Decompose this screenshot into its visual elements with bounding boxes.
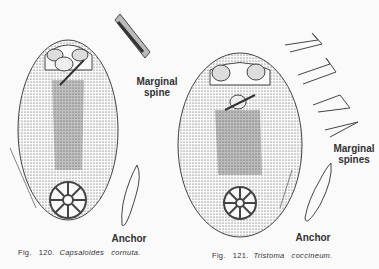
label-marginal-spine: Marginal spine bbox=[130, 76, 184, 98]
capsaloides-haptor bbox=[50, 182, 86, 218]
caption-species: Capsaloides cornuta. bbox=[59, 248, 140, 257]
figure-illustrations bbox=[0, 0, 379, 269]
label-line: spines bbox=[328, 154, 379, 165]
label-line: Marginal bbox=[130, 76, 184, 87]
label-marginal-spines: Marginal spines bbox=[328, 143, 379, 165]
caption-fig-121: Fig. 121. Tristoma coccineum. bbox=[212, 251, 333, 260]
caption-fig-120: Fig. 120. Capsaloides cornuta. bbox=[18, 248, 141, 257]
label-anchor-121: Anchor bbox=[290, 232, 336, 243]
caption-species: Tristoma coccineum. bbox=[253, 251, 332, 260]
caption-number: Fig. 121. bbox=[212, 251, 249, 260]
label-anchor-120: Anchor bbox=[106, 233, 152, 244]
label-line: Marginal bbox=[328, 143, 379, 154]
label-line: spine bbox=[130, 87, 184, 98]
tristoma-haptor bbox=[224, 187, 256, 219]
caption-number: Fig. 120. bbox=[18, 248, 55, 257]
